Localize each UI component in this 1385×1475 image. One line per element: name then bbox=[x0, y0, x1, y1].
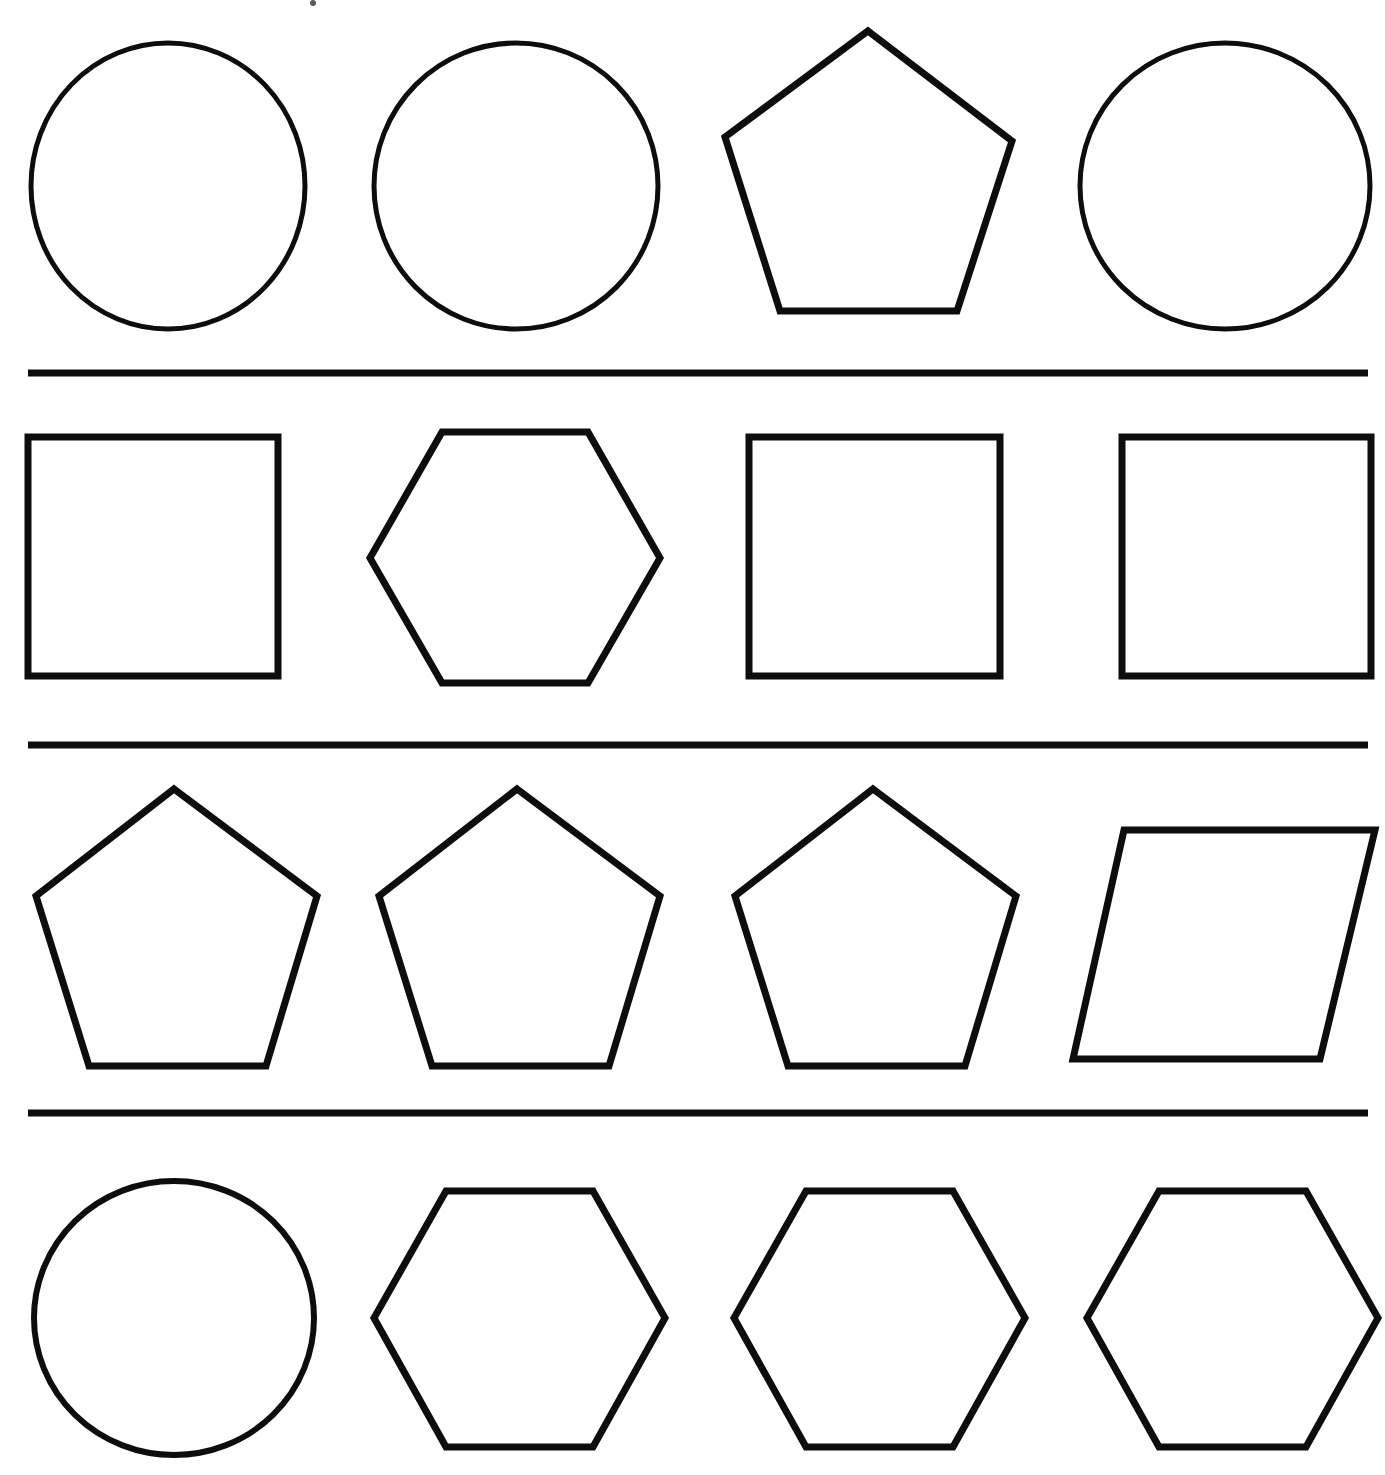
ink-speck bbox=[310, 0, 316, 6]
worksheet-page bbox=[0, 0, 1385, 1475]
shapes-canvas bbox=[0, 0, 1385, 1475]
page-background bbox=[0, 0, 1385, 1475]
